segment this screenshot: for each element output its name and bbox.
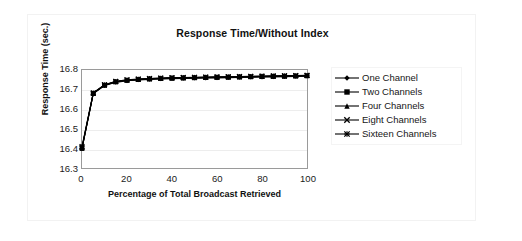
asterisk-marker [125, 77, 130, 82]
asterisk-marker [147, 76, 152, 81]
asterisk-marker [260, 74, 265, 79]
series-two-channels [80, 74, 310, 151]
series-line [82, 75, 307, 146]
legend-swatch-cross [334, 114, 360, 126]
asterisk-marker [282, 73, 287, 78]
diamond-marker [344, 75, 349, 80]
legend-label: Two Channels [360, 86, 422, 98]
series-layer [82, 70, 307, 168]
x-tick-label: 20 [111, 173, 141, 184]
asterisk-marker [80, 144, 85, 149]
legend: One ChannelTwo ChannelsFour ChannelsEigh… [331, 67, 462, 145]
asterisk-marker [181, 75, 186, 80]
series-line [82, 76, 307, 148]
asterisk-marker [248, 74, 253, 79]
series-line [82, 76, 307, 149]
x-tick-label: 100 [293, 173, 323, 184]
asterisk-marker [192, 75, 197, 80]
legend-item[interactable]: One Channel [334, 71, 459, 85]
series-sixteen-channels [80, 73, 310, 149]
legend-item[interactable]: Sixteen Channels [334, 127, 459, 141]
x-tick-label: 60 [202, 173, 232, 184]
legend-swatch-asterisk [334, 128, 360, 140]
chart-title: Response Time/Without Index [28, 27, 477, 39]
legend-item[interactable]: Eight Channels [334, 113, 459, 127]
x-axis-tick-labels: 020406080100 [81, 173, 308, 187]
asterisk-marker [237, 74, 242, 79]
legend-swatch-diamond [334, 72, 360, 84]
legend-label: Sixteen Channels [360, 128, 436, 140]
y-tick-label: 16.5 [48, 124, 78, 134]
asterisk-marker [170, 75, 175, 80]
legend-label: Eight Channels [360, 114, 426, 126]
x-axis-title: Percentage of Total Broadcast Retrieved [58, 189, 331, 199]
asterisk-marker [91, 91, 96, 96]
asterisk-marker [293, 73, 298, 78]
asterisk-marker [158, 76, 163, 81]
asterisk-marker [102, 82, 107, 87]
y-tick-label: 16.4 [48, 144, 78, 154]
square-marker [344, 89, 349, 94]
x-tick-label: 40 [157, 173, 187, 184]
plot-area [81, 69, 308, 169]
y-tick-label: 16.7 [48, 84, 78, 94]
series-one-channel [80, 74, 310, 151]
y-tick-label: 16.8 [48, 64, 78, 74]
x-tick-label: 0 [66, 173, 96, 184]
series-line [82, 76, 307, 149]
legend-swatch-square [334, 86, 360, 98]
legend-item[interactable]: Four Channels [334, 99, 459, 113]
legend-swatch-triangle [334, 100, 360, 112]
asterisk-marker [226, 74, 231, 79]
asterisk-marker [344, 131, 349, 136]
legend-item[interactable]: Two Channels [334, 85, 459, 99]
y-axis-tick-labels: 16.316.416.516.616.716.8 [44, 69, 78, 169]
asterisk-marker [215, 75, 220, 80]
asterisk-marker [136, 77, 141, 82]
series-line [82, 75, 307, 147]
series-eight-channels [80, 73, 310, 150]
legend-label: Four Channels [360, 100, 424, 112]
asterisk-marker [305, 73, 310, 78]
legend-label: One Channel [360, 72, 418, 84]
chart-figure: Response Time/Without Index Response Tim… [27, 14, 476, 221]
asterisk-marker [203, 75, 208, 80]
asterisk-marker [113, 79, 118, 84]
x-tick-label: 80 [248, 173, 278, 184]
y-tick-label: 16.6 [48, 104, 78, 114]
asterisk-marker [271, 74, 276, 79]
series-four-channels [80, 73, 310, 150]
